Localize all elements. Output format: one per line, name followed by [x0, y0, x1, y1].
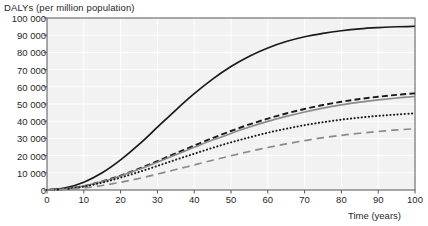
chart-figure: DALYs (per million population) Time (yea… — [0, 0, 428, 226]
chart-plot-area — [0, 0, 428, 226]
